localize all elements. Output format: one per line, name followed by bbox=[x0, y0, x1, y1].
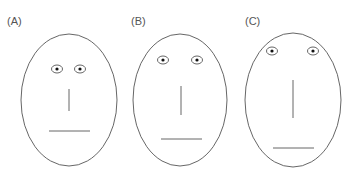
face-label: (C) bbox=[245, 15, 260, 27]
face-label: (A) bbox=[7, 15, 22, 27]
pupil bbox=[195, 58, 198, 61]
faces-diagram: (A)(B)(C) bbox=[0, 0, 354, 176]
pupil bbox=[78, 67, 81, 70]
face-label: (B) bbox=[131, 15, 146, 27]
face-c: (C) bbox=[245, 15, 341, 167]
pupil bbox=[55, 67, 58, 70]
face-b: (B) bbox=[131, 15, 227, 166]
pupil bbox=[311, 49, 314, 52]
pupil bbox=[161, 58, 164, 61]
face-outline bbox=[133, 34, 227, 166]
face-a: (A) bbox=[7, 15, 117, 166]
pupil bbox=[270, 49, 273, 52]
